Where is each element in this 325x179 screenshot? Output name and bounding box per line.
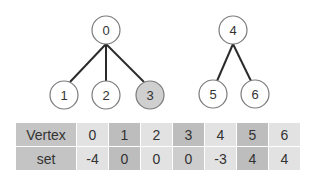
vertex-cell: 1: [109, 123, 140, 146]
disjoint-set-table: Vertex 0 1 2 3 4 5 6 set -4 0 0 0 -3 4 4: [15, 122, 301, 171]
vertex-cell: 3: [173, 123, 204, 146]
set-cell: -4: [77, 147, 108, 170]
edge-4-5: [217, 44, 233, 81]
svg-text:3: 3: [146, 88, 153, 103]
set-cell: 0: [109, 147, 140, 170]
edge-0-3: [106, 44, 144, 82]
row-header-vertex: Vertex: [16, 123, 76, 146]
node-2: 2: [92, 81, 120, 109]
set-cell-highlighted: 0: [173, 147, 204, 170]
svg-text:2: 2: [102, 88, 109, 103]
set-row: set -4 0 0 0 -3 4 4: [16, 147, 300, 170]
vertex-cell: 0: [77, 123, 108, 146]
svg-text:5: 5: [209, 87, 216, 102]
set-cell: 0: [141, 147, 172, 170]
svg-text:0: 0: [102, 23, 109, 38]
node-4: 4: [219, 16, 247, 44]
node-3-highlighted: 3: [136, 81, 164, 109]
node-1: 1: [50, 81, 78, 109]
node-5: 5: [199, 80, 227, 108]
set-cell: 4: [237, 147, 268, 170]
svg-text:6: 6: [251, 87, 258, 102]
vertex-cell: 5: [237, 123, 268, 146]
edges: [70, 44, 251, 82]
vertex-cell: 2: [141, 123, 172, 146]
vertex-cell: 4: [205, 123, 236, 146]
edge-0-1: [70, 44, 106, 82]
vertex-cell: 6: [269, 123, 300, 146]
svg-text:1: 1: [60, 88, 67, 103]
node-6: 6: [241, 80, 269, 108]
set-cell: 4: [269, 147, 300, 170]
vertex-row: Vertex 0 1 2 3 4 5 6: [16, 123, 300, 146]
edge-4-6: [233, 44, 251, 81]
union-find-forest: 0 1 2 3 4 5 6: [0, 0, 325, 115]
set-cell: -3: [205, 147, 236, 170]
row-header-set: set: [16, 147, 76, 170]
node-0: 0: [92, 16, 120, 44]
svg-text:4: 4: [229, 23, 236, 38]
